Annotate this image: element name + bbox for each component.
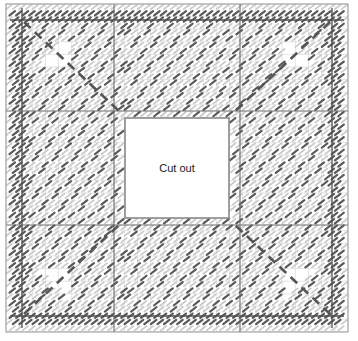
- cutout-region: Cut out: [125, 118, 229, 218]
- cutout-label: Cut out: [159, 162, 194, 174]
- reinforcement-diagram: Cut out: [0, 0, 358, 341]
- diagram-canvas: Cut out: [0, 0, 358, 341]
